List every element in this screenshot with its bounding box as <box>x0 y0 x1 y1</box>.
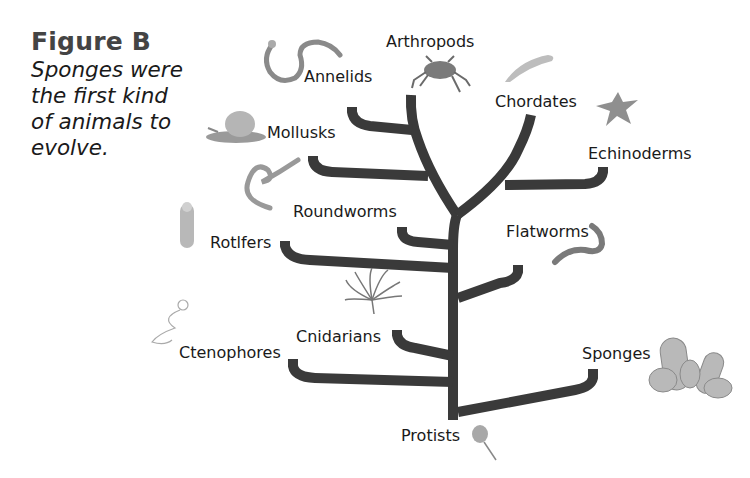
ctenophores-branch <box>293 359 453 382</box>
starfish-icon <box>596 92 638 126</box>
arthropods-branch <box>411 95 457 215</box>
label-annelids: Annelids <box>304 67 372 86</box>
comb-jelly-icon <box>152 300 188 344</box>
fish-icon <box>505 55 553 82</box>
label-flatworms: Flatworms <box>506 222 589 241</box>
label-echinoderms: Echinoderms <box>588 144 692 163</box>
sea-anemone-icon <box>345 268 402 314</box>
label-chordates: Chordates <box>495 92 577 111</box>
label-roundworms: Roundworms <box>293 202 397 221</box>
roundworms-branch <box>402 227 453 245</box>
label-mollusks: Mollusks <box>267 123 336 142</box>
label-cnidarians: Cnidarians <box>296 327 381 346</box>
snail-icon <box>206 111 266 143</box>
chordates-branch <box>457 115 531 215</box>
sponge-icon <box>649 336 732 398</box>
label-arthropods: Arthropods <box>386 32 474 51</box>
roundworm-icon <box>247 160 298 208</box>
label-protists: Protists <box>401 426 460 445</box>
mollusks-branch <box>313 156 428 176</box>
echinoderms-branch <box>505 167 603 185</box>
label-sponges: Sponges <box>582 344 651 363</box>
crab-icon <box>412 56 470 92</box>
flatworms-branch <box>458 265 518 298</box>
sponges-branch <box>458 369 593 412</box>
protist-icon <box>472 425 496 460</box>
label-ctenophores: Ctenophores <box>179 343 281 362</box>
label-rotifers: Rotlfers <box>210 233 271 252</box>
annelids-branch <box>352 107 412 130</box>
trunk-branch <box>453 215 457 420</box>
rotifer-icon <box>180 202 194 248</box>
cnidarians-branch <box>397 330 453 356</box>
phylogenetic-tree <box>0 0 750 478</box>
